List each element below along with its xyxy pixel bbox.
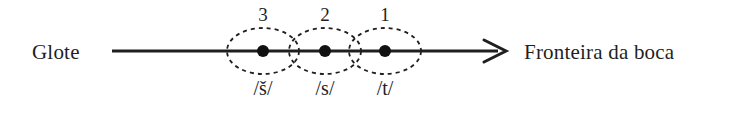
segment-number: 3	[243, 5, 283, 24]
segment-point-marker	[379, 45, 391, 57]
segment-phoneme-label: /s/	[295, 78, 355, 98]
vocal-tract-segment-diagram: Glote Fronteira da boca 3 2 1 /š/ /s/ /t…	[0, 0, 750, 115]
segment-phoneme-label: /š/	[233, 78, 293, 98]
segment-phoneme-label: /t/	[355, 78, 415, 98]
segment-point-marker	[257, 45, 269, 57]
segment-number: 2	[305, 5, 345, 24]
segment-point-marker	[319, 45, 331, 57]
segment-number: 1	[365, 5, 405, 24]
axis-right-label: Fronteira da boca	[524, 42, 674, 63]
axis-left-label: Glote	[32, 42, 80, 63]
